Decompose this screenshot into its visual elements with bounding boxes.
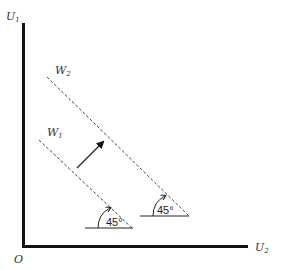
- origin-label: O: [14, 253, 23, 266]
- w2-line: [47, 77, 189, 216]
- angle2-label: 45°: [157, 204, 174, 216]
- y-axis-label: U1: [6, 10, 20, 24]
- w1-line: [39, 140, 132, 228]
- w1-label: W1: [47, 126, 63, 140]
- welfare-diagram: U1 U2 O W2 W1 45° 45°: [0, 0, 281, 270]
- shift-arrow: [77, 142, 103, 168]
- angle1-label: 45°: [106, 216, 123, 228]
- x-axis-label: U2: [255, 241, 269, 255]
- w2-label: W2: [55, 64, 71, 78]
